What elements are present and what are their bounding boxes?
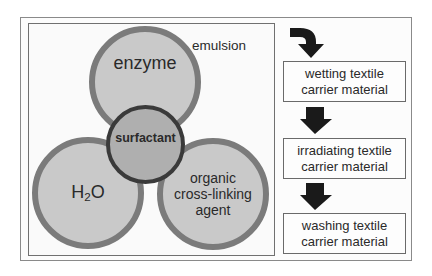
arrow-down-icon bbox=[299, 107, 333, 134]
water-label: H2O bbox=[71, 183, 105, 204]
enzyme-label: enzyme bbox=[113, 54, 176, 74]
process-step-wetting: wetting textile carrier material bbox=[283, 61, 406, 102]
organic-label: organic cross-linking agent bbox=[174, 170, 252, 218]
process-step-washing: washing textile carrier material bbox=[283, 213, 406, 254]
process-step-irradiating: irradiating textile carrier material bbox=[283, 138, 406, 179]
surfactant-label: surfactant bbox=[115, 131, 175, 145]
emulsion-label: emulsion bbox=[192, 38, 246, 53]
surfactant-circle: surfactant bbox=[106, 105, 185, 184]
curved-arrow-down-icon bbox=[288, 26, 328, 59]
arrow-down-icon bbox=[299, 183, 333, 210]
